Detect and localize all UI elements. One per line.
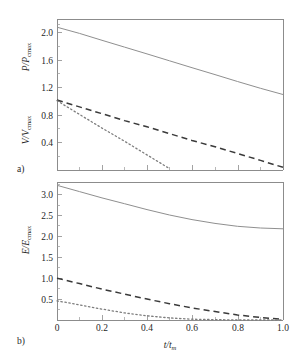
panel-b: 0.5 1.0 1.5 2.0 2.5 3.0 0 0.2 0.4 0.6 0.…	[17, 182, 289, 347]
panel-b-ytick-0: 0.5	[41, 295, 53, 305]
panel-a-x-ticks	[57, 165, 283, 170]
panel-a-ylabel-pressure: P/Pcmax	[21, 42, 32, 72]
panel-b-xtick-1: 0.2	[96, 323, 108, 333]
panel-b-label: b)	[17, 336, 25, 347]
panel-a-ylabel-volume-sub: cmax	[25, 115, 32, 130]
panel-a-ytick-3: 1.6	[41, 56, 53, 66]
panel-b-xtick-5: 1.0	[277, 323, 289, 333]
panel-b-ytick-1: 1.0	[41, 274, 53, 284]
panel-a-ytick-4: 2.0	[41, 28, 53, 38]
panel-a-ylabel-volume-main: V/V	[21, 129, 31, 144]
svg-text:V/Vcmax: V/Vcmax	[21, 115, 32, 144]
panel-b-curve-solid	[57, 185, 283, 229]
panel-a-ylabel-pressure-main: P/P	[21, 57, 31, 72]
panel-b-xtick-3: 0.6	[186, 323, 198, 333]
panel-a-ylabel-volume: V/Vcmax	[21, 115, 32, 144]
panel-a-label: a)	[17, 164, 24, 175]
panel-a-y-ticks	[57, 24, 62, 156]
panel-b-ytick-2: 1.5	[41, 253, 53, 263]
panel-a-ylabel-pressure-sub: cmax	[25, 42, 32, 57]
panel-b-ytick-4: 2.5	[41, 211, 53, 221]
panel-a-curve-solid	[57, 27, 283, 94]
panel-a-curve-dashed	[57, 100, 283, 167]
panel-a-ytick-2: 1.2	[41, 83, 53, 93]
panel-a-ytick-1: 0.8	[41, 111, 53, 121]
panel-b-xtick-2: 0.4	[141, 323, 153, 333]
panel-b-curve-dashed	[57, 278, 283, 319]
figure-container: 0.4 0.8 1.2 1.6 2.0 P/Pcmax V/Vcmax a)	[0, 0, 299, 361]
svg-text:P/Pcmax: P/Pcmax	[21, 42, 32, 72]
panel-b-ytick-3: 2.0	[41, 232, 53, 242]
panel-a-curve-dotted	[57, 101, 170, 169]
panel-b-xtick-4: 0.8	[232, 323, 244, 333]
figure-svg: 0.4 0.8 1.2 1.6 2.0 P/Pcmax V/Vcmax a)	[0, 0, 299, 361]
panel-b-xtick-0: 0	[55, 323, 60, 333]
panel-b-ytick-5: 3.0	[41, 190, 53, 200]
x-axis-title-sub: m	[172, 344, 177, 351]
panel-a: 0.4 0.8 1.2 1.6 2.0 P/Pcmax V/Vcmax a)	[17, 19, 283, 175]
panel-b-ylabel-energy-main: E/E	[21, 240, 31, 255]
panel-b-ylabel-energy-sub: cmax	[25, 225, 32, 240]
panel-b-ylabel-energy: E/Ecmax	[21, 225, 32, 255]
svg-text:E/Ecmax: E/Ecmax	[21, 225, 32, 255]
panel-b-y-ticks	[57, 184, 62, 309]
panel-a-ytick-0: 0.4	[41, 138, 53, 148]
x-axis-title: t/tm	[164, 340, 177, 351]
